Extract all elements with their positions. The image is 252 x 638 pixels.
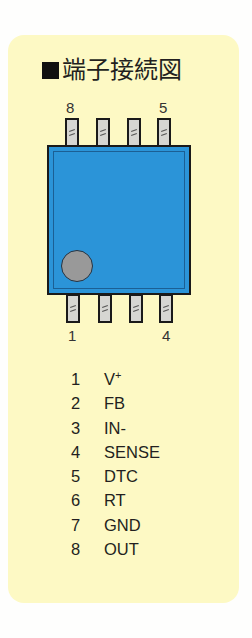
pin-number: 7 (71, 513, 104, 537)
pin-row: 5DTC (71, 464, 160, 488)
pin-label-bottom-left: 1 (68, 327, 76, 344)
pin-number: 2 (71, 391, 104, 415)
pin-number: 3 (71, 416, 104, 440)
pin-name: RT (104, 491, 126, 509)
pin-name: FB (104, 394, 125, 412)
pin-6 (127, 118, 141, 147)
pin-label-top-left: 8 (66, 99, 74, 116)
pin-name: IN- (104, 419, 126, 437)
pin-function-list: 1V+ 2FB 3IN- 4SENSE 5DTC 6RT 7GND 8OUT (71, 367, 160, 561)
pin-8 (65, 118, 79, 147)
pin-4 (159, 294, 173, 323)
title-text: 端子接続図 (62, 56, 182, 84)
diagram-title: 端子接続図 (42, 54, 182, 86)
pin-row: 1V+ (71, 367, 160, 391)
pin-3 (129, 294, 143, 323)
pin-row: 2FB (71, 391, 160, 415)
pin-7 (96, 118, 110, 147)
pin-number: 6 (71, 488, 104, 512)
pin-number: 5 (71, 464, 104, 488)
pin-row: 3IN- (71, 416, 160, 440)
pin-row: 6RT (71, 488, 160, 512)
pin-number: 8 (71, 537, 104, 561)
pin-2 (98, 294, 112, 323)
pin-name: DTC (104, 467, 138, 485)
pin-row: 4SENSE (71, 440, 160, 464)
square-bullet-icon (42, 62, 59, 79)
pin-5 (157, 118, 171, 147)
pin-name: GND (104, 516, 141, 534)
pin-name: OUT (104, 540, 139, 558)
pin-number: 4 (71, 440, 104, 464)
pin-row: 8OUT (71, 537, 160, 561)
pin1-index-mark (61, 250, 93, 282)
pin-number: 1 (71, 367, 104, 391)
pin-name-superscript: + (115, 369, 121, 381)
pin-label-bottom-right: 4 (162, 327, 170, 344)
pin-name: V (104, 370, 115, 388)
pin-row: 7GND (71, 513, 160, 537)
pin-label-top-right: 5 (159, 99, 167, 116)
pin-name: SENSE (104, 443, 160, 461)
pin-1 (66, 294, 80, 323)
